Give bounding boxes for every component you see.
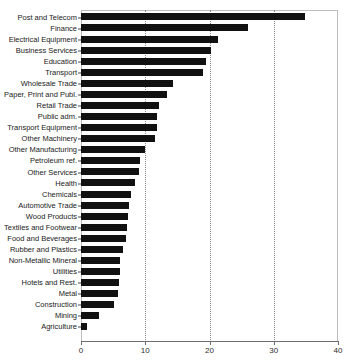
bar-row: Business Services [0,45,353,56]
bar-row: Health [0,178,353,189]
bar [81,179,135,186]
category-label: Business Services [16,47,77,55]
bar-row: Hotels and Rest. [0,278,353,289]
bar-row: Food and Beverages [0,233,353,244]
bar-row: Education [0,56,353,67]
category-label: Other Machinery [22,135,77,143]
x-tick-label-30: 30 [269,346,278,355]
bar-row: Utilities [0,267,353,278]
category-label: Other Manufacturing [9,146,77,154]
bar [81,213,128,220]
bar [81,312,99,319]
category-label: Utilities [53,268,77,276]
bar-chart: 010203040 Post and TelecomFinanceElectri… [0,0,353,361]
bar-row: Finance [0,23,353,34]
bar [81,168,139,175]
bar-row: Public adm. [0,112,353,123]
bar [81,47,211,54]
category-label: Hotels and Rest. [22,279,77,287]
bar [81,69,203,76]
category-label: Health [55,180,77,188]
bar-row: Other Manufacturing [0,145,353,156]
bar [81,146,145,153]
bar [81,135,155,142]
bar [81,323,87,330]
bar [81,113,157,120]
x-tick-label-10: 10 [141,346,150,355]
bar-row: Other Machinery [0,134,353,145]
category-label: Wood Products [26,213,77,221]
category-label: Transport [45,69,77,77]
bar-row: Transport Equipment [0,123,353,134]
bar-row: Paper, Print and Publ. [0,89,353,100]
category-label: Chemicals [42,191,77,199]
bar-row: Metal [0,289,353,300]
bar-row: Wood Products [0,211,353,222]
category-label: Agriculture [41,323,77,331]
x-tick-20 [210,341,211,345]
bar-row: Mining [0,311,353,322]
category-label: Paper, Print and Publ. [4,91,77,99]
category-label: Textiles and Footwear [4,224,77,232]
category-label: Wholesale Trade [21,80,77,88]
category-label: Transport Equipment [7,124,77,132]
bar [81,268,120,275]
bar-row: Wholesale Trade [0,78,353,89]
x-tick-label-0: 0 [79,346,83,355]
bar-row: Retail Trade [0,101,353,112]
category-label: Metal [59,290,77,298]
category-label: Petroleum ref. [30,157,77,165]
category-label: Food and Beverages [7,235,77,243]
bar [81,202,129,209]
x-tick-10 [145,341,146,345]
bar [81,102,159,109]
bar [81,224,127,231]
bar [81,24,248,31]
category-label: Retail Trade [37,102,77,110]
bar [81,80,173,87]
category-label: Education [44,58,77,66]
bar-row: Non-Metallic Mineral [0,256,353,267]
bar [81,36,218,43]
category-label: Finance [50,25,77,33]
x-tick-30 [274,341,275,345]
bar [81,91,167,98]
bar [81,191,131,198]
bar-row: Construction [0,300,353,311]
bar-row: Agriculture [0,322,353,333]
bar [81,301,114,308]
category-label: Non-Metallic Mineral [9,257,77,265]
bar-row: Other Services [0,167,353,178]
bar [81,290,118,297]
bar-row: Electrical Equipment [0,34,353,45]
bar [81,157,140,164]
x-tick-40 [338,341,339,345]
category-label: Automotive Trade [18,202,77,210]
bar-row: Textiles and Footwear [0,222,353,233]
category-label: Post and Telecom [18,14,77,22]
x-tick-label-40: 40 [334,346,343,355]
bar [81,124,157,131]
bar [81,13,305,20]
bar [81,246,123,253]
bar [81,257,120,264]
category-label: Rubber and Plastics [10,246,77,254]
bar-row: Automotive Trade [0,200,353,211]
bar [81,58,206,65]
category-label: Electrical Equipment [9,36,77,44]
bar-row: Post and Telecom [0,12,353,23]
bar [81,235,126,242]
category-label: Construction [35,301,77,309]
bar-row: Transport [0,67,353,78]
category-label: Mining [55,312,77,320]
bar-row: Rubber and Plastics [0,244,353,255]
category-label: Other Services [27,169,77,177]
x-tick-0 [81,341,82,345]
bar-row: Petroleum ref. [0,156,353,167]
bar [81,279,119,286]
x-tick-label-20: 20 [205,346,214,355]
category-label: Public adm. [38,113,77,121]
bar-row: Chemicals [0,189,353,200]
